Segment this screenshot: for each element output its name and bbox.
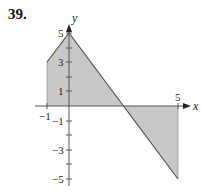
- area-chart: y x 5 3 1 −1 −3 −5 −1 5: [0, 0, 202, 193]
- x-tick-label-neg1: −1: [39, 110, 51, 122]
- x-axis-arrow-icon: [183, 103, 191, 109]
- y-tick-label-neg1: −1: [52, 115, 64, 127]
- y-tick-label-neg5: −5: [52, 173, 64, 185]
- x-tick-label-5: 5: [175, 91, 181, 103]
- y-tick-label-1: 1: [58, 85, 64, 97]
- y-tick-label-neg3: −3: [52, 144, 64, 156]
- y-axis-arrow-icon: [66, 24, 72, 32]
- y-tick-label-3: 3: [58, 56, 64, 68]
- y-tick-label-5: 5: [58, 27, 64, 39]
- y-axis-label: y: [71, 11, 78, 25]
- x-axis-label: x: [192, 99, 199, 113]
